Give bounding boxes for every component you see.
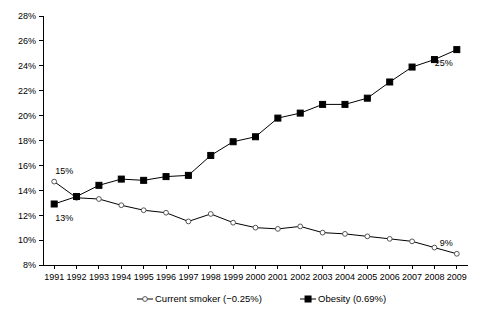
- chart-container: 8%10%12%14%16%18%20%22%24%26%28% 1991199…: [0, 0, 489, 313]
- x-tick-label: 2006: [380, 272, 400, 282]
- data-point-marker-square: [364, 95, 370, 101]
- chart-legend: Current smoker (−0.25%)Obesity (0.69%): [137, 293, 386, 304]
- y-tick-label: 16%: [18, 161, 36, 171]
- x-tick-label: 2005: [357, 272, 377, 282]
- data-point-marker-square: [230, 139, 236, 145]
- data-point-marker-circle: [454, 251, 459, 256]
- legend-item-label: Obesity (0.69%): [318, 293, 386, 304]
- data-point-marker-circle: [231, 220, 236, 225]
- data-point-marker-circle: [432, 245, 437, 250]
- data-point-marker-square: [163, 174, 169, 180]
- x-tick-label: 1993: [89, 272, 109, 282]
- data-point-marker-square: [409, 64, 415, 70]
- data-point-marker-square: [118, 176, 124, 182]
- y-tick-label: 10%: [18, 235, 36, 245]
- data-label-annotation: 9%: [440, 238, 453, 248]
- x-tick-label: 1991: [44, 272, 64, 282]
- x-tick-label: 2004: [335, 272, 355, 282]
- legend-marker-square: [305, 296, 311, 302]
- x-tick-label: 1995: [134, 272, 154, 282]
- data-point-marker-circle: [52, 179, 57, 184]
- data-point-marker-circle: [275, 226, 280, 231]
- x-tick-label: 2008: [424, 272, 444, 282]
- data-point-marker-circle: [320, 230, 325, 235]
- y-tick-label: 26%: [18, 36, 36, 46]
- data-point-marker-circle: [410, 239, 415, 244]
- data-point-marker-square: [208, 152, 214, 158]
- legend-item-label: Current smoker (−0.25%): [155, 293, 262, 304]
- data-point-marker-square: [297, 110, 303, 116]
- data-point-marker-square: [51, 201, 57, 207]
- chart-background: [0, 0, 489, 313]
- x-tick-label: 1996: [156, 272, 176, 282]
- y-tick-label: 12%: [18, 211, 36, 221]
- x-tick-label: 1994: [111, 272, 131, 282]
- data-point-marker-circle: [365, 234, 370, 239]
- x-tick-label: 2000: [245, 272, 265, 282]
- data-point-marker-circle: [141, 208, 146, 213]
- x-tick-label: 1999: [223, 272, 243, 282]
- data-point-marker-circle: [208, 212, 213, 217]
- y-tick-label: 28%: [18, 11, 36, 21]
- legend-marker-circle: [143, 297, 148, 302]
- data-point-marker-circle: [343, 231, 348, 236]
- data-point-marker-square: [454, 47, 460, 53]
- data-point-marker-square: [342, 101, 348, 107]
- data-point-marker-circle: [119, 203, 124, 208]
- y-tick-label: 8%: [23, 260, 36, 270]
- line-chart: 8%10%12%14%16%18%20%22%24%26%28% 1991199…: [0, 0, 489, 313]
- x-tick-label: 1992: [67, 272, 87, 282]
- x-tick-label: 2003: [313, 272, 333, 282]
- x-tick-label: 1998: [201, 272, 221, 282]
- x-tick-label: 2007: [402, 272, 422, 282]
- y-tick-label: 14%: [18, 186, 36, 196]
- data-label-annotation: 25%: [435, 58, 453, 68]
- data-point-marker-circle: [97, 197, 102, 202]
- data-point-marker-circle: [387, 236, 392, 241]
- data-point-marker-square: [185, 172, 191, 178]
- y-tick-label: 24%: [18, 61, 36, 71]
- x-tick-label: 1997: [178, 272, 198, 282]
- data-point-marker-square: [96, 182, 102, 188]
- data-point-marker-square: [253, 134, 259, 140]
- data-point-marker-circle: [253, 225, 258, 230]
- y-tick-label: 22%: [18, 86, 36, 96]
- data-point-marker-square: [141, 177, 147, 183]
- x-tick-label: 2002: [290, 272, 310, 282]
- x-tick-label: 2009: [447, 272, 467, 282]
- data-label-annotation: 13%: [55, 213, 73, 223]
- data-point-marker-square: [74, 194, 80, 200]
- y-tick-label: 18%: [18, 136, 36, 146]
- data-point-marker-square: [275, 115, 281, 121]
- data-point-marker-square: [320, 101, 326, 107]
- data-point-marker-circle: [298, 224, 303, 229]
- x-tick-label: 2001: [268, 272, 288, 282]
- data-label-annotation: 15%: [55, 166, 73, 176]
- y-tick-label: 20%: [18, 111, 36, 121]
- data-point-marker-circle: [186, 219, 191, 224]
- data-point-marker-circle: [164, 210, 169, 215]
- data-point-marker-square: [387, 79, 393, 85]
